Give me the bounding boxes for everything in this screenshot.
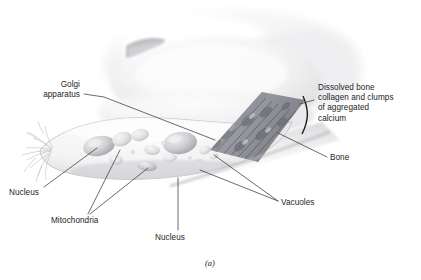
leader-nucleus-left — [44, 148, 97, 187]
osteoclast-figure: Golgi apparatus Nucleus Mitochondria Nuc… — [0, 0, 421, 280]
label-golgi-apparatus: Golgi apparatus — [10, 80, 80, 100]
leader-golgi — [84, 94, 215, 140]
label-vacuoles: Vacuoles — [281, 198, 341, 208]
leader-mitochondria — [88, 150, 148, 214]
label-dissolved-bone-collagen: Dissolved bone collagen and clumps of ag… — [318, 83, 418, 124]
leader-vacuoles — [200, 155, 278, 201]
label-mitochondria: Mitochondria — [51, 216, 131, 226]
label-bone: Bone — [330, 153, 380, 163]
label-nucleus-bottom: Nucleus — [155, 233, 215, 243]
figure-caption: (a) — [205, 258, 215, 268]
leader-dissolved-bone — [300, 100, 314, 104]
leader-bone — [278, 133, 327, 157]
label-nucleus-left: Nucleus — [9, 188, 69, 198]
